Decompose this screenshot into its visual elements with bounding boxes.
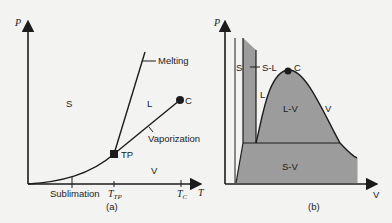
melting-label: Melting: [158, 55, 189, 66]
triple-point-label: TP: [121, 149, 133, 160]
region-s-label: S: [236, 62, 242, 73]
vaporization-leader: [149, 127, 153, 132]
sublimation-label: Sublimation: [50, 188, 100, 199]
region-sv-label: S-V: [282, 161, 299, 172]
p-axis-label-b: P: [213, 17, 220, 28]
critical-point-label: C: [185, 95, 192, 106]
pv-diagram: P V S S-L C L L-V V S-V (b): [213, 17, 380, 212]
sublimation-curve: [28, 154, 114, 184]
region-sl-label: S-L: [262, 62, 277, 73]
region-vapor-label: V: [151, 165, 158, 176]
region-liquid-label: L: [147, 98, 152, 109]
region-v-label: V: [325, 103, 332, 114]
critical-point-label-b: C: [294, 62, 301, 73]
pt-diagram: P T S L V Melting Vaporization Sublimati…: [14, 17, 205, 212]
region-solid-label: S: [66, 98, 72, 109]
vaporization-label: Vaporization: [148, 133, 200, 144]
critical-point-marker-b: [285, 68, 292, 75]
solid-liquid-region: [243, 38, 256, 143]
t-axis-label: T: [198, 187, 205, 198]
melting-curve: [114, 52, 145, 154]
t-tp-tick-label: TTP: [108, 188, 122, 201]
caption-a: (a): [106, 201, 118, 212]
caption-b: (b): [308, 201, 320, 212]
region-l-label: L: [260, 89, 265, 100]
critical-point-marker: [176, 96, 184, 104]
p-axis-label: P: [14, 17, 21, 28]
t-c-tick-label: TC: [177, 188, 188, 201]
v-axis-label: V: [373, 189, 380, 200]
phase-diagrams: P T S L V Melting Vaporization Sublimati…: [0, 0, 392, 223]
region-lv-label: L-V: [283, 103, 298, 114]
triple-point-marker: [110, 150, 118, 158]
